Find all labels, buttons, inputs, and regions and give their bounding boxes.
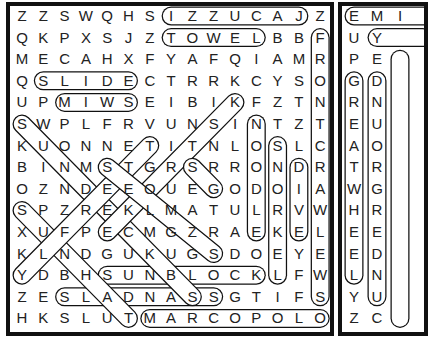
- grid-letter[interactable]: N: [181, 114, 203, 134]
- grid-letter[interactable]: G: [181, 244, 203, 264]
- grid-letter[interactable]: N: [366, 265, 388, 285]
- grid-letter[interactable]: B: [11, 157, 33, 177]
- grid-letter[interactable]: P: [54, 114, 76, 134]
- grid-letter[interactable]: D: [96, 71, 118, 91]
- grid-letter[interactable]: I: [288, 179, 310, 199]
- grid-letter[interactable]: R: [366, 200, 388, 220]
- grid-letter[interactable]: T: [118, 308, 140, 328]
- grid-letter[interactable]: S: [96, 157, 118, 177]
- grid-letter[interactable]: W: [309, 200, 331, 220]
- grid-letter[interactable]: L: [75, 114, 97, 134]
- grid-letter[interactable]: H: [343, 200, 365, 220]
- grid-letter[interactable]: M: [139, 222, 161, 242]
- grid-letter[interactable]: D: [118, 287, 140, 307]
- grid-letter[interactable]: S: [54, 308, 76, 328]
- grid-letter[interactable]: R: [366, 157, 388, 177]
- grid-letter[interactable]: L: [245, 200, 267, 220]
- grid-letter[interactable]: S: [181, 287, 203, 307]
- grid-letter[interactable]: D: [32, 265, 54, 285]
- grid-letter[interactable]: M: [160, 200, 182, 220]
- grid-letter[interactable]: A: [224, 222, 246, 242]
- grid-letter[interactable]: A: [96, 287, 118, 307]
- grid-letter[interactable]: H: [11, 308, 33, 328]
- grid-letter[interactable]: I: [160, 136, 182, 156]
- grid-letter[interactable]: E: [245, 222, 267, 242]
- grid-letter[interactable]: R: [267, 200, 289, 220]
- grid-letter[interactable]: X: [118, 49, 140, 69]
- grid-letter[interactable]: U: [118, 265, 140, 285]
- grid-letter[interactable]: P: [245, 308, 267, 328]
- grid-letter[interactable]: O: [245, 244, 267, 264]
- grid-letter[interactable]: I: [75, 92, 97, 112]
- grid-letter[interactable]: A: [181, 49, 203, 69]
- grid-letter[interactable]: E: [118, 179, 140, 199]
- grid-letter[interactable]: A: [160, 308, 182, 328]
- grid-letter[interactable]: U: [366, 287, 388, 307]
- grid-letter[interactable]: S: [139, 6, 161, 26]
- grid-letter[interactable]: L: [288, 308, 310, 328]
- grid-letter[interactable]: N: [139, 265, 161, 285]
- grid-letter[interactable]: Y: [343, 287, 365, 307]
- grid-letter[interactable]: E: [343, 114, 365, 134]
- grid-letter[interactable]: T: [139, 136, 161, 156]
- grid-letter[interactable]: T: [160, 71, 182, 91]
- grid-letter[interactable]: R: [309, 49, 331, 69]
- grid-letter[interactable]: R: [203, 157, 225, 177]
- grid-letter[interactable]: T: [267, 114, 289, 134]
- grid-letter[interactable]: M: [54, 92, 76, 112]
- grid-letter[interactable]: H: [118, 6, 140, 26]
- grid-letter[interactable]: N: [366, 92, 388, 112]
- grid-letter[interactable]: O: [54, 136, 76, 156]
- grid-letter[interactable]: U: [366, 114, 388, 134]
- grid-letter[interactable]: J: [118, 28, 140, 48]
- grid-letter[interactable]: Z: [267, 92, 289, 112]
- grid-letter[interactable]: O: [245, 157, 267, 177]
- grid-letter[interactable]: N: [245, 114, 267, 134]
- grid-letter[interactable]: W: [32, 114, 54, 134]
- grid-letter[interactable]: U: [160, 114, 182, 134]
- grid-letter[interactable]: U: [11, 92, 33, 112]
- grid-letter[interactable]: H: [96, 49, 118, 69]
- grid-letter[interactable]: L: [224, 136, 246, 156]
- grid-letter[interactable]: E: [288, 222, 310, 242]
- grid-letter[interactable]: F: [288, 287, 310, 307]
- grid-letter[interactable]: C: [54, 49, 76, 69]
- grid-letter[interactable]: D: [245, 179, 267, 199]
- grid-letter[interactable]: E: [118, 71, 140, 91]
- grid-letter[interactable]: U: [343, 28, 365, 48]
- grid-letter[interactable]: M: [75, 157, 97, 177]
- grid-letter[interactable]: S: [96, 28, 118, 48]
- grid-letter[interactable]: D: [75, 244, 97, 264]
- grid-letter[interactable]: V: [288, 200, 310, 220]
- grid-letter[interactable]: C: [245, 6, 267, 26]
- grid-letter[interactable]: R: [181, 71, 203, 91]
- grid-letter[interactable]: Z: [288, 114, 310, 134]
- grid-letter[interactable]: D: [224, 244, 246, 264]
- grid-letter[interactable]: O: [11, 179, 33, 199]
- grid-letter[interactable]: L: [75, 308, 97, 328]
- grid-letter[interactable]: O: [203, 265, 225, 285]
- grid-letter[interactable]: P: [75, 222, 97, 242]
- grid-letter[interactable]: B: [181, 92, 203, 112]
- grid-letter[interactable]: F: [96, 114, 118, 134]
- grid-letter[interactable]: K: [224, 71, 246, 91]
- grid-letter[interactable]: D: [288, 157, 310, 177]
- grid-letter[interactable]: M: [366, 6, 388, 26]
- grid-letter[interactable]: O: [181, 28, 203, 48]
- grid-letter[interactable]: L: [181, 265, 203, 285]
- grid-letter[interactable]: N: [267, 157, 289, 177]
- grid-letter[interactable]: C: [245, 71, 267, 91]
- grid-letter[interactable]: T: [181, 136, 203, 156]
- grid-letter[interactable]: M: [11, 49, 33, 69]
- grid-letter[interactable]: L: [343, 265, 365, 285]
- grid-letter[interactable]: I: [160, 6, 182, 26]
- grid-letter[interactable]: G: [224, 287, 246, 307]
- grid-letter[interactable]: W: [75, 6, 97, 26]
- grid-letter[interactable]: S: [54, 6, 76, 26]
- grid-letter[interactable]: D: [366, 244, 388, 264]
- grid-letter[interactable]: S: [288, 71, 310, 91]
- grid-letter[interactable]: P: [32, 92, 54, 112]
- grid-letter[interactable]: S: [32, 71, 54, 91]
- grid-letter[interactable]: K: [224, 92, 246, 112]
- grid-letter[interactable]: Z: [181, 6, 203, 26]
